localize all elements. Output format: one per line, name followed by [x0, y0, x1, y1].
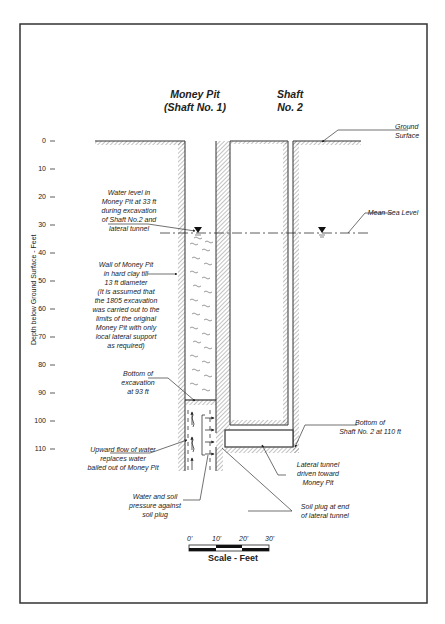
- scale-tick-10: 10': [212, 535, 221, 542]
- water-level-marker-icon: [194, 227, 202, 233]
- lateral-tunnel: [225, 430, 299, 453]
- ground-surface-right: [293, 141, 361, 145]
- bottom-excavation-label: Bottom of excavation at 93 ft: [108, 369, 168, 396]
- scale-tick-0: 0': [187, 535, 192, 542]
- money-pit-right-wall: [216, 141, 223, 471]
- water-waves: [190, 237, 213, 391]
- lateral-tunnel-label: Lateral tunnel driven toward Money Pit: [288, 460, 348, 487]
- scale-title: Scale - Feet: [208, 553, 258, 563]
- lateral-pressure-arrows: [202, 410, 214, 474]
- mean-sea-level-label: Mean Sea Level: [363, 208, 423, 217]
- scale-tick-30: 30': [265, 535, 274, 542]
- wall-label: Wall of Money Pit in hard clay till 13 f…: [80, 260, 172, 350]
- tick-110: 110: [24, 445, 46, 452]
- tick-30: 30: [24, 221, 46, 228]
- tick-10: 10: [24, 165, 46, 172]
- excavation-bottom: [185, 400, 216, 405]
- depth-axis-label: Depth below Ground Surface - Feet: [30, 234, 37, 345]
- ground-surface-left: [95, 141, 185, 145]
- water-level-label: Water level in Money Pit at 33 ft during…: [88, 188, 170, 233]
- ground-surface-label: Ground Surface: [395, 122, 435, 140]
- shaft2-walls: [223, 141, 299, 453]
- money-pit-left-wall: [178, 141, 185, 471]
- scale-tick-20: 20': [239, 535, 248, 542]
- tick-80: 80: [24, 361, 46, 368]
- depth-axis-ticks: [50, 141, 55, 449]
- upward-flow-arrows: [188, 410, 194, 474]
- tick-0: 0: [24, 137, 46, 144]
- tick-20: 20: [24, 193, 46, 200]
- scale-bar: [189, 545, 269, 551]
- soil-plug-label: Soil plug at end of lateral tunnel: [290, 502, 360, 520]
- water-soil-pressure-label: Water and soil pressure against soil plu…: [120, 492, 190, 519]
- tick-90: 90: [24, 389, 46, 396]
- upward-flow-label: Upward flow of water replaces water bail…: [73, 445, 173, 472]
- water-level-line: [160, 227, 370, 237]
- sea-level-marker-icon: [318, 227, 326, 233]
- tick-100: 100: [24, 417, 46, 424]
- money-pit-title: Money Pit (Shaft No. 1): [145, 88, 245, 114]
- bottom-shaft2-label: Bottom of Shaft No. 2 at 110 ft: [330, 418, 410, 436]
- shaft2-title: Shaft No. 2: [265, 88, 315, 114]
